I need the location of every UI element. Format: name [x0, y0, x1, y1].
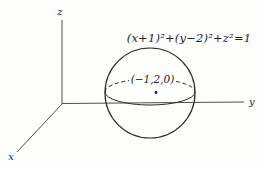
x-axis-label: x [8, 151, 14, 162]
sphere-outline-circle [105, 48, 195, 138]
center-point-label: (−1,2,0) [131, 73, 175, 85]
x-axis-line [17, 104, 62, 152]
sphere-center-dot [155, 91, 158, 94]
z-axis-label: z [56, 6, 63, 17]
sphere-equation-label: (x+1)²+(y−2)²+z²=1 [127, 31, 252, 45]
y-axis-line [62, 102, 244, 104]
y-axis-label: y [248, 96, 255, 107]
sphere-equation-figure: (−1,2,0) (x+1)²+(y−2)²+z²=1 z y x [0, 0, 265, 169]
figure-canvas: (−1,2,0) (x+1)²+(y−2)²+z²=1 z y x [0, 0, 265, 169]
